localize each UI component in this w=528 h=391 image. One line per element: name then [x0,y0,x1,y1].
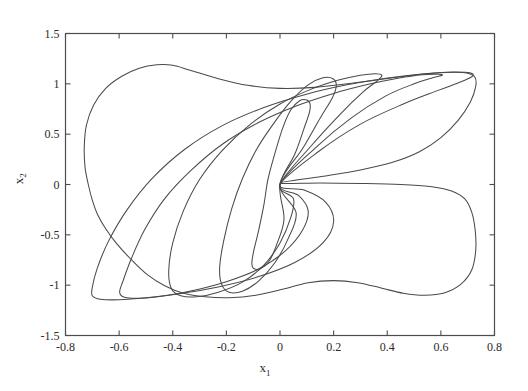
x-tick-label-8: 0.8 [487,340,502,355]
x-axis-label: x1 [260,360,271,378]
figure-background [0,0,528,391]
x-tick-label-3: -0.2 [217,340,236,355]
x-tick-label-6: 0.4 [380,340,395,355]
y-tick-label-4: 0.5 [45,127,60,142]
x-tick-label-7: 0.6 [433,340,448,355]
y-axis-label: x2 [11,173,29,184]
y-tick-label-6: 1.5 [45,26,60,41]
x-tick-label-1: -0.6 [110,340,129,355]
y-tick-label-5: 1 [54,76,60,91]
phase-portrait-figure: -0.8-0.6-0.4-0.200.20.40.60.8-1.5-1-0.50… [0,0,528,391]
y-tick-label-2: -0.5 [41,227,60,242]
x-tick-label-5: 0.2 [326,340,341,355]
x-tick-label-2: -0.4 [163,340,182,355]
y-tick-label-3: 0 [54,177,60,192]
y-tick-label-1: -1 [50,278,60,293]
plot-canvas [0,0,528,391]
y-tick-label-0: -1.5 [41,328,60,343]
x-tick-label-4: 0 [277,340,283,355]
